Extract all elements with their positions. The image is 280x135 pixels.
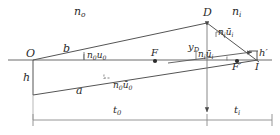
label-point-D: D [203, 7, 212, 18]
label-focal-Fprime: F′ [232, 62, 241, 72]
lower-ray-a [33, 60, 258, 95]
diagram-canvas: no ni D O h b a F F′ I h′ yD n0u0 n0ū0 n… [0, 0, 280, 135]
label-angle-n0ubar0: n0ū0 [113, 81, 132, 91]
label-ray-a: a [76, 85, 83, 96]
label-distance-ti: ti [234, 105, 240, 116]
label-point-O: O [26, 48, 35, 59]
label-image-point-I: I [255, 62, 259, 72]
label-object-height-h: h [23, 72, 30, 83]
label-angle-n0u0: n0u0 [87, 51, 106, 61]
label-angle-niubari-upper: niūi [218, 28, 234, 38]
upper-ray-b [33, 23, 207, 60]
label-distance-t0: t0 [113, 105, 121, 116]
focal-point-F-dot [153, 59, 157, 63]
label-ray-b: b [63, 43, 70, 54]
label-image-height-hprime: h′ [259, 48, 268, 58]
label-medium-image: ni [232, 6, 241, 18]
label-focal-F: F [151, 48, 158, 58]
label-angle-niubari-lower: niūi [198, 50, 214, 60]
label-medium-object: no [74, 6, 86, 18]
